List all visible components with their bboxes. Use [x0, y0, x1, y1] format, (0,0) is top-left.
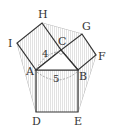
label-F: F — [98, 50, 106, 63]
label-I: I — [8, 37, 12, 50]
measure-AC: 4 — [42, 48, 48, 59]
label-B: B — [79, 70, 87, 83]
label-D: D — [32, 115, 41, 128]
label-H: H — [38, 8, 48, 21]
label-E: E — [74, 115, 82, 128]
label-A: A — [25, 65, 35, 78]
measure-AB: 5 — [53, 73, 59, 84]
label-G: G — [82, 20, 91, 33]
pythagoras-diagram: H G C F I A B D E 4 5 — [0, 0, 115, 133]
label-C: C — [58, 35, 66, 48]
